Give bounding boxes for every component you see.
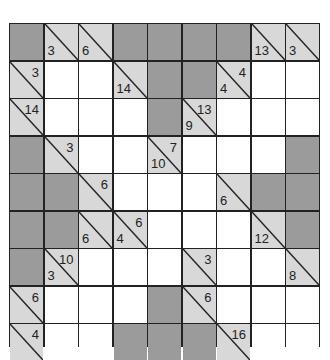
down-clue-sum: 10	[151, 157, 165, 170]
entry-cell[interactable]	[286, 287, 319, 323]
entry-cell[interactable]	[79, 249, 112, 285]
entry-cell[interactable]	[217, 212, 250, 248]
block-cell	[148, 24, 181, 60]
entry-cell[interactable]	[148, 249, 181, 285]
entry-cell[interactable]	[79, 62, 112, 98]
clue-cell: 13	[252, 24, 285, 60]
down-clue-sum: 9	[186, 119, 193, 132]
clue-cell: 310	[45, 249, 78, 285]
across-clue-sum: 7	[170, 141, 177, 154]
block-cell	[183, 62, 216, 98]
block-cell	[10, 249, 43, 285]
entry-cell[interactable]	[217, 137, 250, 173]
clue-cell: 46	[114, 212, 147, 248]
block-cell	[148, 324, 181, 360]
down-clue-sum: 13	[255, 44, 269, 57]
block-cell	[114, 24, 147, 60]
down-clue-sum: 12	[255, 232, 269, 245]
entry-cell[interactable]	[252, 137, 285, 173]
down-clue-sum: 6	[82, 232, 89, 245]
down-clue-sum: 4	[117, 232, 124, 245]
entry-cell[interactable]	[183, 137, 216, 173]
clue-cell: 3	[183, 249, 216, 285]
entry-cell[interactable]	[79, 324, 112, 360]
clue-cell: 3	[286, 24, 319, 60]
entry-cell[interactable]	[45, 62, 78, 98]
across-clue-sum: 16	[232, 328, 246, 341]
block-cell	[252, 174, 285, 210]
entry-cell[interactable]	[148, 212, 181, 248]
clue-cell: 4	[10, 324, 43, 360]
entry-cell[interactable]	[183, 212, 216, 248]
down-clue-sum: 4	[220, 82, 227, 95]
entry-cell[interactable]	[217, 249, 250, 285]
entry-cell[interactable]	[217, 99, 250, 135]
entry-cell[interactable]	[148, 174, 181, 210]
clue-cell: 6	[79, 212, 112, 248]
clue-cell: 3	[45, 137, 78, 173]
block-cell	[114, 324, 147, 360]
across-clue-sum: 3	[66, 141, 73, 154]
clue-cell: 3	[45, 24, 78, 60]
entry-cell[interactable]	[114, 99, 147, 135]
entry-cell[interactable]	[183, 174, 216, 210]
entry-cell[interactable]	[79, 137, 112, 173]
block-cell	[10, 137, 43, 173]
across-clue-sum: 6	[135, 216, 142, 229]
down-clue-sum: 6	[82, 44, 89, 57]
entry-cell[interactable]	[286, 62, 319, 98]
entry-cell[interactable]	[79, 99, 112, 135]
down-clue-sum: 6	[220, 194, 227, 207]
clue-cell: 14	[114, 62, 147, 98]
entry-cell[interactable]	[114, 137, 147, 173]
block-cell	[286, 137, 319, 173]
down-clue-sum: 8	[289, 269, 296, 282]
kakuro-grid: 361333144414913310766646123103866416	[9, 23, 320, 347]
entry-cell[interactable]	[286, 99, 319, 135]
entry-cell[interactable]	[114, 287, 147, 323]
clue-cell: 12	[252, 212, 285, 248]
entry-cell[interactable]	[45, 287, 78, 323]
entry-cell[interactable]	[45, 324, 78, 360]
entry-cell[interactable]	[252, 287, 285, 323]
across-clue-sum: 10	[59, 253, 73, 266]
entry-cell[interactable]	[252, 249, 285, 285]
block-cell	[45, 212, 78, 248]
block-cell	[183, 24, 216, 60]
down-clue-sum: 3	[289, 44, 296, 57]
clue-cell: 16	[217, 324, 250, 360]
clue-cell: 913	[183, 99, 216, 135]
entry-cell[interactable]	[114, 174, 147, 210]
block-cell	[183, 324, 216, 360]
across-clue-sum: 4	[239, 66, 246, 79]
block-cell	[10, 24, 43, 60]
down-clue-sum: 3	[48, 44, 55, 57]
block-cell	[45, 174, 78, 210]
across-clue-sum: 3	[32, 66, 39, 79]
entry-cell[interactable]	[286, 324, 319, 360]
across-clue-sum: 6	[32, 291, 39, 304]
clue-cell: 6	[10, 287, 43, 323]
entry-cell[interactable]	[252, 62, 285, 98]
clue-cell: 3	[10, 62, 43, 98]
clue-cell: 14	[10, 99, 43, 135]
across-clue-sum: 6	[101, 178, 108, 191]
entry-cell[interactable]	[252, 99, 285, 135]
entry-cell[interactable]	[217, 287, 250, 323]
block-cell	[286, 174, 319, 210]
entry-cell[interactable]	[252, 324, 285, 360]
clue-cell: 6	[183, 287, 216, 323]
across-clue-sum: 14	[25, 103, 39, 116]
across-clue-sum: 3	[204, 253, 211, 266]
block-cell	[286, 212, 319, 248]
clue-cell: 6	[79, 174, 112, 210]
entry-cell[interactable]	[79, 287, 112, 323]
across-clue-sum: 6	[204, 291, 211, 304]
entry-cell[interactable]	[114, 249, 147, 285]
block-cell	[10, 212, 43, 248]
entry-cell[interactable]	[45, 99, 78, 135]
down-clue-sum: 14	[117, 82, 131, 95]
block-cell	[148, 99, 181, 135]
clue-cell: 6	[79, 24, 112, 60]
block-cell	[148, 62, 181, 98]
